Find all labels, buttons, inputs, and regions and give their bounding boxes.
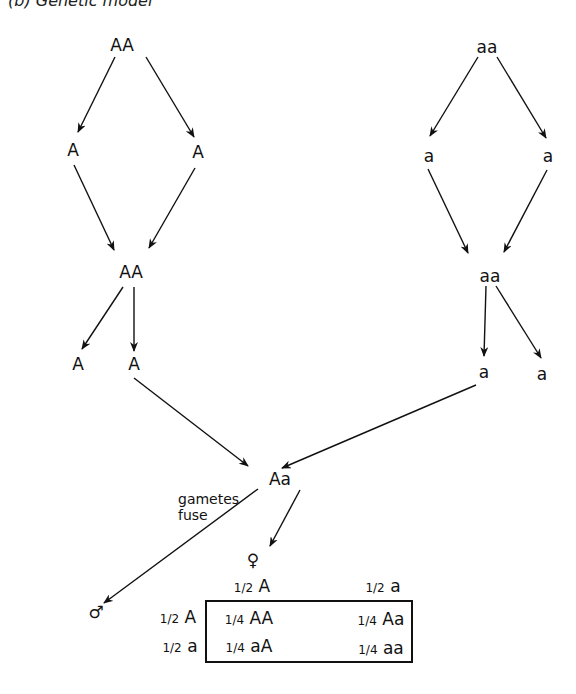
allele: A xyxy=(185,607,197,627)
node-left-gamete-1b: A xyxy=(192,144,204,161)
fraction: 1/2 xyxy=(160,612,179,626)
fraction: 1/2 xyxy=(234,581,253,595)
col-header-a: 1/2 a xyxy=(365,578,400,595)
fraction: 1/2 xyxy=(365,581,384,595)
col-header-A: 1/2 A xyxy=(234,578,270,595)
node-right-gamete-2b: a xyxy=(537,366,547,383)
node-left-offspring: AA xyxy=(119,264,143,281)
node-left-gamete-2b: A xyxy=(128,356,140,373)
genotype: aa xyxy=(383,638,404,658)
node-right-gamete-1b: a xyxy=(543,148,553,165)
female-symbol-icon: ♀ xyxy=(247,552,259,569)
gametes-label: gametes fuse xyxy=(210,502,271,530)
genotype: AA xyxy=(249,608,273,628)
fraction: 1/4 xyxy=(358,614,377,628)
node-left-parent: AA xyxy=(110,37,134,54)
genotype: Aa xyxy=(382,609,404,629)
cell-aa: 1/4 aa xyxy=(358,640,404,657)
arrows-layer xyxy=(0,0,576,694)
row-header-a: 1/2 a xyxy=(162,638,197,655)
row-header-A: 1/2 A xyxy=(160,609,196,626)
node-right-offspring: aa xyxy=(480,268,501,285)
node-right-parent: aa xyxy=(477,39,498,56)
allele: A xyxy=(259,576,271,596)
genotype: aA xyxy=(250,636,272,656)
fraction: 1/4 xyxy=(358,643,377,657)
fraction: 1/4 xyxy=(225,613,244,627)
gametes-label-line-2: fuse xyxy=(178,508,239,522)
cell-aA: 1/4 aA xyxy=(226,638,273,655)
node-hybrid: Aa xyxy=(269,471,291,488)
node-right-gamete-2a: a xyxy=(479,364,489,381)
fraction: 1/2 xyxy=(162,641,181,655)
node-left-gamete-2a: A xyxy=(72,356,84,373)
fraction: 1/4 xyxy=(226,641,245,655)
node-left-gamete-1a: A xyxy=(67,142,79,159)
cell-AA: 1/4 AA xyxy=(225,610,273,627)
cell-Aa: 1/4 Aa xyxy=(358,611,405,628)
allele: a xyxy=(390,576,400,596)
gametes-label-line-1: gametes xyxy=(178,492,239,506)
node-right-gamete-1a: a xyxy=(424,148,434,165)
male-symbol-icon: ♂ xyxy=(88,604,103,621)
allele: a xyxy=(187,636,197,656)
